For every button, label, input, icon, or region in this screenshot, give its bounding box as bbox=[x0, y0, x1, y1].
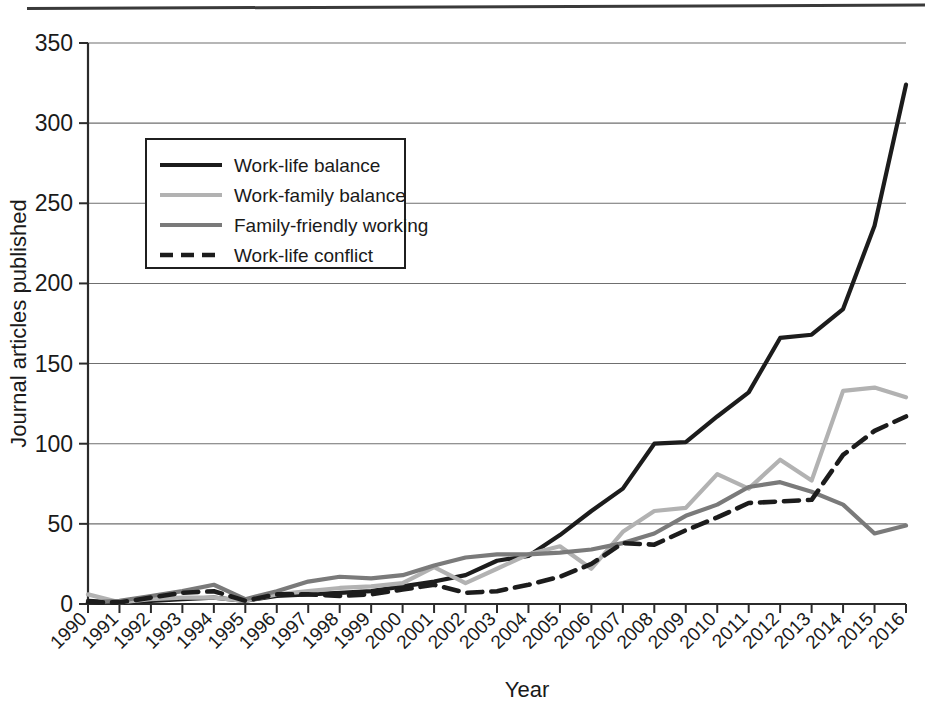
y-axis-tick-label: 350 bbox=[35, 30, 73, 56]
line-chart-canvas: 050100150200250300350 199019911992199319… bbox=[0, 0, 938, 713]
legend-item-label: Work-life balance bbox=[234, 155, 380, 176]
y-axis-title: Journal articles published bbox=[6, 199, 31, 447]
x-axis-ticks-group bbox=[88, 604, 906, 613]
x-axis-tick-labels-group: 1990199119921993199419951996199719981999… bbox=[46, 608, 909, 653]
y-axis-tick-label: 300 bbox=[35, 110, 73, 136]
y-axis-ticks-group bbox=[79, 43, 88, 604]
y-axis-tick-label: 100 bbox=[35, 431, 73, 457]
chart-legend: Work-life balanceWork-family balanceFami… bbox=[146, 139, 428, 268]
y-axis-tick-label: 200 bbox=[35, 270, 73, 296]
gridlines-group bbox=[88, 43, 906, 524]
legend-item-label: Work-life conflict bbox=[234, 245, 374, 266]
y-axis-tick-labels-group: 050100150200250300350 bbox=[35, 30, 73, 617]
x-axis-tick-label: 2016 bbox=[864, 608, 909, 653]
y-axis-tick-label: 50 bbox=[47, 511, 73, 537]
x-axis-title: Year bbox=[505, 677, 549, 702]
chart-figure: 050100150200250300350 199019911992199319… bbox=[0, 0, 938, 713]
y-axis-tick-label: 250 bbox=[35, 190, 73, 216]
series-line bbox=[88, 388, 906, 603]
legend-item-label: Family-friendly working bbox=[234, 215, 428, 236]
y-axis-tick-label: 150 bbox=[35, 351, 73, 377]
legend-item-label: Work-family balance bbox=[234, 185, 406, 206]
series-line bbox=[88, 416, 906, 602]
